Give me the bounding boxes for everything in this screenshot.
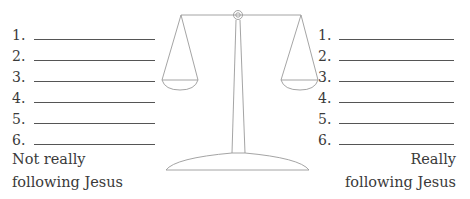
right-list-item-1: 1. — [318, 23, 458, 43]
left-list-item-1: 1. — [12, 23, 162, 43]
item-number: 1. — [12, 27, 32, 43]
item-number: 4. — [12, 90, 32, 106]
right-caption-line-2: following Jesus — [345, 171, 456, 194]
item-number: 5. — [318, 111, 338, 127]
right-list-item-6: 6. — [318, 128, 458, 148]
right-blank-5[interactable] — [339, 123, 454, 124]
right-blank-2[interactable] — [339, 60, 454, 61]
left-blank-4[interactable] — [34, 102, 155, 103]
right-blank-4[interactable] — [339, 102, 454, 103]
item-number: 2. — [318, 48, 338, 64]
left-blank-3[interactable] — [34, 81, 155, 82]
right-list-item-2: 2. — [318, 44, 458, 64]
item-number: 6. — [12, 132, 32, 148]
left-blank-6[interactable] — [34, 144, 155, 145]
right-list-item-4: 4. — [318, 86, 458, 106]
right-caption: Really following Jesus — [345, 148, 456, 194]
item-number: 6. — [318, 132, 338, 148]
right-caption-line-1: Really — [345, 148, 456, 171]
item-number: 1. — [318, 27, 338, 43]
right-list-item-3: 3. — [318, 65, 458, 85]
left-blank-2[interactable] — [34, 60, 155, 61]
right-blank-3[interactable] — [339, 81, 454, 82]
left-list-item-6: 6. — [12, 128, 162, 148]
item-number: 2. — [12, 48, 32, 64]
left-caption-line-2: following Jesus — [12, 171, 123, 194]
left-caption-line-1: Not really — [12, 148, 123, 171]
left-blank-1[interactable] — [34, 39, 155, 40]
item-number: 3. — [12, 69, 32, 85]
right-blank-1[interactable] — [339, 39, 454, 40]
left-list-item-5: 5. — [12, 107, 162, 127]
left-blank-5[interactable] — [34, 123, 155, 124]
left-list-item-4: 4. — [12, 86, 162, 106]
left-list-item-2: 2. — [12, 44, 162, 64]
left-list-item-3: 3. — [12, 65, 162, 85]
item-number: 4. — [318, 90, 338, 106]
item-number: 3. — [318, 69, 338, 85]
item-number: 5. — [12, 111, 32, 127]
left-caption: Not really following Jesus — [12, 148, 123, 194]
right-blank-6[interactable] — [339, 144, 454, 145]
right-list-item-5: 5. — [318, 107, 458, 127]
